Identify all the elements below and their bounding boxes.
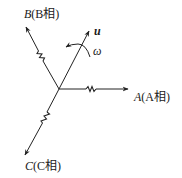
- b-phase-coil-icon: [37, 51, 45, 61]
- omega-label: ω: [93, 45, 101, 57]
- c-phase-symbol: C: [25, 159, 33, 173]
- u-vector: [59, 31, 89, 89]
- a-phase-axis: [59, 87, 128, 92]
- c-phase-coil-icon: [41, 112, 50, 123]
- c-phase-name: (C相): [33, 159, 61, 173]
- rotation-arc-icon: [66, 44, 90, 57]
- three-phase-diagram: [0, 0, 182, 178]
- c-phase-label: C(C相): [25, 160, 61, 172]
- b-phase-label: B(B相): [24, 8, 59, 20]
- u-vector-label: u: [94, 25, 101, 37]
- c-phase-axis: [25, 89, 59, 155]
- b-phase-name: (B相): [31, 7, 59, 21]
- a-phase-name: (A相): [141, 90, 170, 104]
- a-phase-coil-icon: [86, 87, 96, 92]
- b-phase-axis: [26, 27, 59, 89]
- a-phase-label: A(A相): [134, 91, 170, 103]
